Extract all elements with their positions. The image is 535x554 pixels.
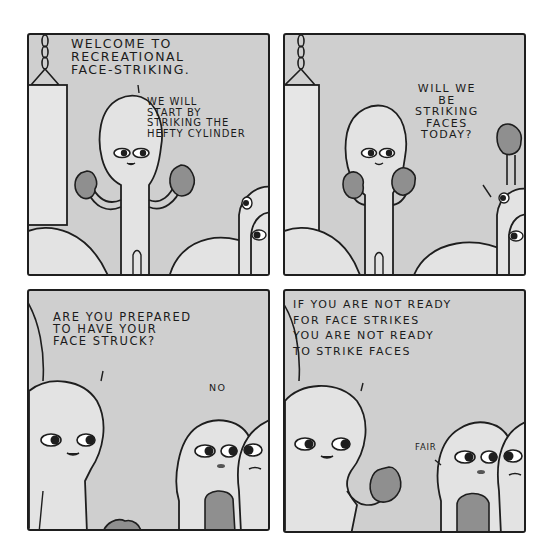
- punching-bag: [29, 85, 67, 225]
- raised-boxing-glove: [370, 467, 401, 502]
- chain-icon: [31, 35, 59, 85]
- speech-text-will-we-be: WILL WE BE STRIKING FACES TODAY?: [415, 83, 479, 141]
- audience-head-left: [29, 228, 109, 276]
- instructor-character: [29, 381, 104, 531]
- boxing-glove-student: [457, 493, 489, 533]
- chain-icon: [285, 35, 315, 85]
- audience-head-left: [285, 228, 361, 276]
- onlooker-peeking-2: [509, 215, 526, 276]
- boxing-glove-left: [75, 171, 97, 199]
- boxing-glove-right: [392, 168, 415, 195]
- raised-boxing-glove: [497, 124, 521, 154]
- speech-text-hefty-cylinder: WE WILL START BY STRIKING THE HEFTY CYLI…: [147, 97, 246, 139]
- comic-panel-3: ARE YOU PREPARED TO HAVE YOUR FACE STRUC…: [27, 289, 270, 531]
- speech-text-prepared: ARE YOU PREPARED TO HAVE YOUR FACE STRUC…: [53, 311, 192, 347]
- punching-bag: [285, 85, 319, 235]
- boxing-glove-bottom: [103, 520, 141, 531]
- instructor-character: [285, 386, 381, 533]
- boxing-glove-left: [343, 172, 363, 198]
- comic-panel-1: WELCOME TO RECREATIONAL FACE-STRIKING. W…: [27, 33, 270, 276]
- boxing-glove-student: [205, 491, 235, 531]
- comic-panel-4: IF YOU ARE NOT READY FOR FACE STRIKES YO…: [283, 289, 526, 533]
- boxing-glove-right: [170, 165, 194, 196]
- panel-2-illustration: [285, 35, 526, 276]
- speech-text-fair: FAIR: [415, 443, 437, 452]
- speech-text-welcome: WELCOME TO RECREATIONAL FACE-STRIKING.: [71, 37, 190, 76]
- speech-text-not-ready: IF YOU ARE NOT READY FOR FACE STRIKES YO…: [293, 297, 452, 359]
- comic-panel-2: WILL WE BE STRIKING FACES TODAY?: [283, 33, 526, 276]
- speech-text-no: NO: [209, 383, 227, 393]
